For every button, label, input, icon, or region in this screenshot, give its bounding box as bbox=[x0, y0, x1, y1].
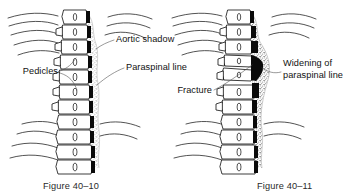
caption-figure-40-11: Figure 40–11 bbox=[257, 181, 312, 191]
canvas-background bbox=[0, 0, 361, 193]
label-fracture: Fracture bbox=[177, 85, 212, 95]
label-paraspinal-line: Paraspinal line bbox=[126, 62, 187, 72]
figure-board: Pedicles Aortic shadow Paraspinal line F… bbox=[0, 0, 361, 193]
label-aortic-shadow: Aortic shadow bbox=[116, 34, 175, 44]
caption-figure-40-10: Figure 40–10 bbox=[43, 181, 99, 191]
figures-svg: Pedicles Aortic shadow Paraspinal line F… bbox=[0, 0, 361, 193]
label-widening-line-2: paraspinal line bbox=[283, 70, 343, 80]
label-widening-line-1: Widening of bbox=[283, 58, 332, 68]
label-pedicles: Pedicles bbox=[23, 66, 58, 76]
